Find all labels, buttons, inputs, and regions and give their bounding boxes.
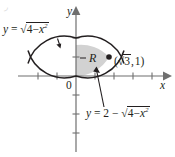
scan-artifact: ◞ xyxy=(4,1,8,12)
lower-const: 2 xyxy=(103,107,109,119)
label-axis-y: y xyxy=(67,6,72,18)
lower-minus-outer: − xyxy=(112,107,119,119)
label-axis-x: x xyxy=(160,80,165,92)
lower-equals: = xyxy=(94,107,101,119)
label-origin: 0 xyxy=(66,80,72,92)
point-marker xyxy=(106,54,112,60)
label-intersection-point: (√3, 1) xyxy=(114,56,144,68)
upper-exponent: 2 xyxy=(44,22,48,30)
upper-lhs: y xyxy=(3,23,8,35)
lower-radical: √4−x2 xyxy=(121,108,149,120)
point-radical: √3 xyxy=(118,56,131,68)
label-upper-curve-equation: y = √4−x2 xyxy=(3,24,49,36)
upper-radical: √4−x2 xyxy=(20,24,48,36)
leader-arrow-upper xyxy=(56,39,61,49)
figure-canvas: ◞ y = √4−x2 y = 2 − √4−x2 (√3, 1) R 0 x … xyxy=(0,0,175,157)
y-axis-arrowhead xyxy=(72,6,81,15)
upper-equals: = xyxy=(11,23,18,35)
label-lower-curve-equation: y = 2 − √4−x2 xyxy=(86,108,150,120)
lower-lhs: y xyxy=(86,107,91,119)
point-radicand: 3 xyxy=(123,54,131,67)
point-close-paren: ) xyxy=(141,55,145,67)
lower-exponent: 2 xyxy=(145,106,149,114)
upper-radicand: 4−x2 xyxy=(26,22,49,35)
point-comma: , xyxy=(131,55,134,67)
label-region-r: R xyxy=(89,52,96,64)
lower-radicand: 4−x2 xyxy=(127,106,150,119)
